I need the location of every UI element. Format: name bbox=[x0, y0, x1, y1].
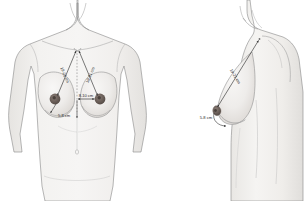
nipple-right bbox=[98, 96, 101, 99]
measure-label-midline-to-nipple: 8-10 cm bbox=[79, 93, 94, 98]
measure-label-nipple-to-fold-lateral: 5-8 cm bbox=[200, 115, 213, 120]
measure-midline-to-nipple: 8-10 cm bbox=[78, 93, 95, 99]
breast-measurement-figure: 19-21 cm 19-21 cm 8-10 cm 5-8 cm bbox=[0, 0, 306, 201]
figure-canvas: 19-21 cm 19-21 cm 8-10 cm 5-8 cm bbox=[0, 0, 306, 201]
measure-label-nipple-to-fold-front: 5-8 cm bbox=[58, 113, 71, 118]
suprasternal-notch-lateral bbox=[259, 38, 261, 40]
nipple-lateral bbox=[214, 109, 217, 112]
nipple-left bbox=[53, 96, 56, 99]
